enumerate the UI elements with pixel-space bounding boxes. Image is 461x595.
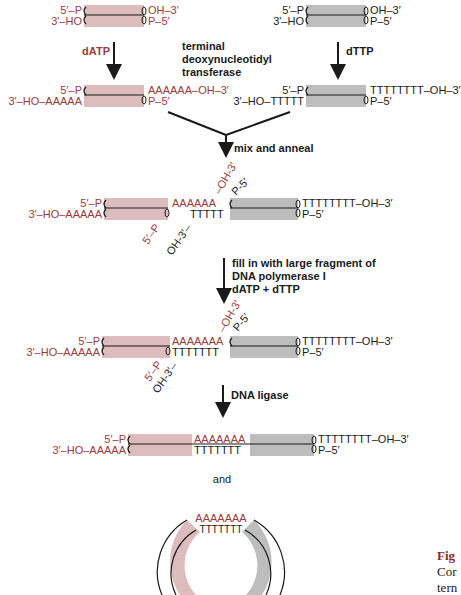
row4-bottom-right: P–5′ — [302, 346, 324, 358]
row2-left-bottom-left: 3′–HO–AAAAA — [8, 95, 82, 107]
row1-right-duplex — [306, 5, 368, 27]
row2-left-bottom-right: P–5′ — [148, 95, 170, 107]
step-dna-ligase: DNA ligase — [231, 389, 289, 401]
enzyme-label-line3: transferase — [182, 66, 241, 78]
caption-line3: tern — [437, 580, 458, 595]
row3-diag-p5-black: P-5′ — [229, 175, 251, 197]
row3-bottom-left: 3′–HO–AAAAA — [28, 208, 102, 220]
step-fill-line2: DNA polymerase I — [232, 270, 326, 282]
row5-bottom-right: P–5′ — [318, 444, 340, 456]
row3-t-tail: TTTTT — [190, 208, 224, 220]
circle-t-tail: TTTTTTT — [200, 524, 243, 535]
row3-bottom-right: P–5′ — [302, 208, 324, 220]
row5-bottom-left: 3′–HO–AAAAA — [52, 444, 126, 456]
enzyme-label-line1: terminal — [182, 40, 225, 52]
row4-bottom-left: 3′–HO–AAAAA — [26, 346, 100, 358]
row2-right-duplex — [306, 85, 368, 107]
row1-left-duplex — [84, 5, 146, 27]
row4-right-duplex — [230, 336, 300, 358]
row3-diag-5p-red: 5′–P — [140, 222, 162, 247]
enzyme-label-line2: deoxynucleotidyl — [182, 53, 272, 65]
and-label: and — [213, 473, 231, 485]
row1-left-bottom-left: 3′–HO — [51, 15, 82, 27]
caption-line1: Fig — [437, 548, 456, 563]
circle-a-tail: AAAAAAA — [195, 512, 247, 524]
merge-line-left — [168, 112, 226, 135]
row3-right-duplex — [230, 198, 300, 220]
row3-diag-oh3-black: OH-3′– — [164, 221, 194, 257]
row2-right-bottom-left: 3′–HO–TTTTT — [233, 95, 304, 107]
row4-left-duplex — [102, 336, 170, 358]
row2-right-bottom-right: P–5′ — [370, 95, 392, 107]
row1-right-bottom-right: P–5′ — [370, 15, 392, 27]
step-fill-line3: dATP + dTTP — [232, 283, 300, 295]
merge-line-right — [226, 112, 290, 135]
caption-line2: Cor — [437, 564, 457, 579]
row2-left-duplex — [84, 85, 146, 107]
step-mix-and-anneal: mix and anneal — [234, 142, 313, 154]
row5-t-tail: TTTTTTT — [194, 444, 241, 456]
step-fill-line1: fill in with large fragment of — [232, 257, 376, 269]
row1-right-bottom-left: 3′–HO — [273, 15, 304, 27]
row1-left-bottom-right: P–5′ — [148, 15, 170, 27]
reagent-datp: dATP — [82, 45, 110, 57]
row4-t-tail: TTTTTTT — [172, 346, 219, 358]
reagent-dttp: dTTP — [346, 45, 374, 57]
row3-left-duplex — [104, 198, 169, 220]
